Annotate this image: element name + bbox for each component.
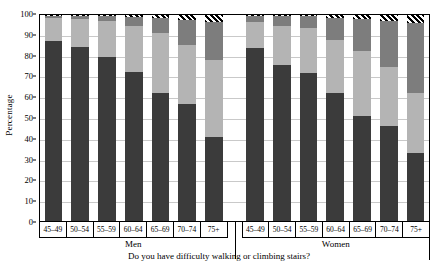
bar-slot — [147, 15, 174, 221]
y-tick-label: 80 — [25, 51, 34, 60]
bar-segment-2 — [407, 93, 425, 153]
group-separator — [228, 222, 242, 238]
bar-slot — [295, 15, 322, 221]
stacked-bar[interactable] — [125, 15, 143, 221]
y-tick-label: 30 — [25, 155, 34, 164]
y-tick-label: 50 — [25, 114, 34, 123]
stacked-bar[interactable] — [326, 15, 344, 221]
y-tick-mark — [33, 14, 36, 15]
bar-segment-3 — [407, 23, 425, 93]
bar-group-women — [242, 15, 430, 221]
stacked-bar[interactable] — [273, 15, 291, 221]
bar-segment-3 — [273, 16, 291, 26]
bar-group-men — [40, 15, 228, 221]
y-tick-mark — [33, 76, 36, 77]
y-axis-tick-labels: 0102030405060708090100 — [16, 14, 36, 222]
bar-segment-4 — [407, 15, 425, 23]
stacked-bar[interactable] — [407, 15, 425, 221]
bar-segment-1 — [125, 72, 143, 221]
y-tick-mark — [33, 222, 36, 223]
y-tick-label: 20 — [25, 176, 34, 185]
bar-slot — [242, 15, 269, 221]
x-tick-label: 45–49 — [243, 222, 270, 237]
bar-segment-3 — [178, 20, 196, 45]
bar-segment-3 — [300, 16, 318, 28]
x-axis-category-labels: 45–4950–5455–5960–6465–6970–7475+45–4950… — [39, 222, 430, 238]
stacked-bar-chart: Percentage 0102030405060708090100 45–495… — [0, 0, 438, 270]
bar-segment-4 — [205, 15, 223, 22]
bar-segment-2 — [152, 33, 170, 94]
x-tick-label: 70–74 — [174, 222, 201, 237]
x-axis-group-men: 45–4950–5455–5960–6465–6970–7475+ — [39, 222, 228, 238]
bar-slot — [67, 15, 94, 221]
bar-segment-1 — [71, 47, 89, 221]
bar-slot — [174, 15, 201, 221]
stacked-bar[interactable] — [205, 15, 223, 221]
stacked-bar[interactable] — [380, 15, 398, 221]
bar-slot — [94, 15, 121, 221]
x-tick-label: 75+ — [403, 222, 429, 237]
bar-segment-1 — [205, 137, 223, 221]
plot-area — [39, 14, 430, 222]
bar-segment-2 — [326, 40, 344, 94]
y-tick-mark — [33, 34, 36, 35]
x-tick-label: 60–64 — [323, 222, 350, 237]
bar-segment-3 — [380, 21, 398, 66]
bar-segment-1 — [407, 153, 425, 221]
stacked-bar[interactable] — [152, 15, 170, 221]
bar-segment-2 — [71, 19, 89, 47]
group-label-men: Men — [39, 238, 228, 250]
bar-segment-1 — [152, 93, 170, 221]
y-tick-label: 90 — [25, 31, 34, 40]
stacked-bar[interactable] — [353, 15, 371, 221]
bar-slot — [268, 15, 295, 221]
x-tick-label: 65–69 — [350, 222, 377, 237]
bar-segment-2 — [380, 67, 398, 127]
bar-segment-1 — [380, 126, 398, 221]
bar-segment-2 — [45, 18, 63, 41]
bar-segment-1 — [178, 104, 196, 221]
group-separator-tick — [228, 238, 242, 250]
bar-segment-3 — [125, 17, 143, 26]
x-tick-label: 75+ — [201, 222, 227, 237]
bar-slot — [120, 15, 147, 221]
stacked-bar[interactable] — [246, 15, 264, 221]
bar-segment-2 — [178, 45, 196, 104]
bar-segment-3 — [326, 18, 344, 40]
y-tick-label: 10 — [25, 197, 34, 206]
bar-slot — [201, 15, 228, 221]
y-tick-mark — [33, 97, 36, 98]
bar-slot — [322, 15, 349, 221]
y-tick-mark — [33, 55, 36, 56]
bar-segment-1 — [300, 73, 318, 221]
bar-series-container — [40, 15, 429, 221]
y-tick-mark — [33, 201, 36, 202]
y-tick-label: 70 — [25, 72, 34, 81]
bar-segment-1 — [273, 65, 291, 221]
bar-segment-2 — [98, 21, 116, 57]
bar-segment-2 — [125, 26, 143, 71]
bar-segment-2 — [246, 22, 264, 48]
y-tick-mark — [33, 138, 36, 139]
stacked-bar[interactable] — [300, 15, 318, 221]
y-tick-label: 40 — [25, 135, 34, 144]
y-tick-label: 100 — [20, 10, 33, 19]
bar-segment-1 — [45, 41, 63, 221]
bar-slot — [349, 15, 376, 221]
bar-slot — [402, 15, 429, 221]
x-tick-label: 55–59 — [296, 222, 323, 237]
x-tick-label: 50–54 — [67, 222, 94, 237]
bar-segment-1 — [246, 48, 264, 221]
y-tick-mark — [33, 180, 36, 181]
stacked-bar[interactable] — [178, 15, 196, 221]
x-tick-label: 70–74 — [376, 222, 403, 237]
bar-segment-3 — [205, 22, 223, 60]
stacked-bar[interactable] — [45, 15, 63, 221]
stacked-bar[interactable] — [71, 15, 89, 221]
stacked-bar[interactable] — [98, 15, 116, 221]
bar-slot — [375, 15, 402, 221]
chart-caption: Do you have difficulty walking or climbi… — [0, 251, 438, 261]
bar-segment-2 — [205, 60, 223, 136]
y-tick-label: 60 — [25, 93, 34, 102]
bar-segment-2 — [273, 26, 291, 65]
